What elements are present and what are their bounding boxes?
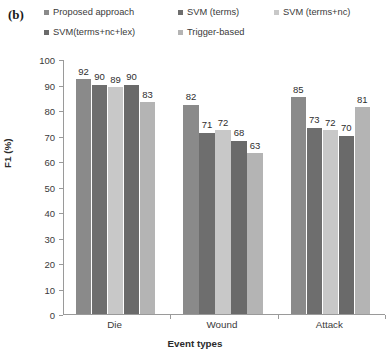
bar-value-label: 72 xyxy=(325,118,336,128)
legend-item-0[interactable]: Proposed approach xyxy=(44,8,134,17)
legend-swatch-icon xyxy=(178,30,183,35)
bar[interactable] xyxy=(108,87,123,314)
bar[interactable] xyxy=(215,130,230,314)
bar-wrapper: 90 xyxy=(92,59,107,314)
legend-item-label: Trigger-based xyxy=(187,28,245,37)
legend-swatch-icon xyxy=(44,10,49,15)
bar[interactable] xyxy=(355,107,370,314)
bar-value-label: 89 xyxy=(110,75,121,85)
bar-wrapper: 72 xyxy=(215,59,230,314)
bar[interactable] xyxy=(183,105,198,314)
legend-item-label: SVM (terms+nc) xyxy=(283,8,350,17)
x-axis-tick xyxy=(385,315,386,319)
y-axis-tick-label: 90 xyxy=(44,80,55,91)
y-axis-tick: 10 xyxy=(59,290,63,291)
bar[interactable] xyxy=(76,79,91,314)
bar-wrapper: 81 xyxy=(355,59,370,314)
bar-value-label: 90 xyxy=(126,72,137,82)
legend-item-1[interactable]: SVM (terms) xyxy=(178,8,239,17)
chart-legend: Proposed approachSVM (terms)SVM (terms+n… xyxy=(44,6,388,48)
bar[interactable] xyxy=(199,133,214,314)
bar-wrapper: 71 xyxy=(199,59,214,314)
bar[interactable] xyxy=(92,85,107,315)
y-axis-tick: 20 xyxy=(59,264,63,265)
bar[interactable] xyxy=(323,130,338,314)
y-axis-tick-label: 40 xyxy=(44,208,55,219)
legend-item-2[interactable]: SVM (terms+nc) xyxy=(274,8,350,17)
bar-wrapper: 83 xyxy=(140,59,155,314)
bar[interactable] xyxy=(140,102,155,314)
x-axis-tick xyxy=(278,315,279,319)
figure-panel-label: (b) xyxy=(8,7,24,23)
bar[interactable] xyxy=(339,136,354,315)
x-axis-category-label: Die xyxy=(107,319,122,330)
legend-item-3[interactable]: SVM(terms+nc+lex) xyxy=(44,28,135,37)
legend-swatch-icon xyxy=(178,10,183,15)
bar-wrapper: 63 xyxy=(247,59,262,314)
bar-wrapper: 90 xyxy=(124,59,139,314)
y-axis-tick: 40 xyxy=(59,213,63,214)
bar-value-label: 90 xyxy=(94,72,105,82)
bar-value-label: 63 xyxy=(250,141,261,151)
bar-value-label: 71 xyxy=(202,120,213,130)
bar-group-attack: 8573727081 xyxy=(291,60,370,314)
y-axis-tick: 0 xyxy=(59,315,63,316)
bar-wrapper: 73 xyxy=(307,59,322,314)
bar-wrapper: 82 xyxy=(183,59,198,314)
y-axis-tick-label: 70 xyxy=(44,131,55,142)
bar-wrapper: 89 xyxy=(108,59,123,314)
x-axis-category-label: Attack xyxy=(316,319,343,330)
plot-area: 0102030405060708090100 92908990838271726… xyxy=(63,60,385,315)
y-axis-tick: 30 xyxy=(59,239,63,240)
y-axis-tick-label: 0 xyxy=(50,310,55,321)
y-axis-tick: 90 xyxy=(59,86,63,87)
bar[interactable] xyxy=(307,128,322,314)
bar-wrapper: 92 xyxy=(76,59,91,314)
y-axis-tick-label: 60 xyxy=(44,157,55,168)
x-axis-tick xyxy=(170,315,171,319)
x-axis-title: Event types xyxy=(0,338,390,349)
bar[interactable] xyxy=(247,153,262,314)
bar-value-label: 81 xyxy=(357,95,368,105)
legend-item-label: Proposed approach xyxy=(53,8,134,17)
y-axis-tick-label: 80 xyxy=(44,106,55,117)
legend-item-label: SVM(terms+nc+lex) xyxy=(53,28,135,37)
bar-value-label: 68 xyxy=(234,128,245,138)
legend-swatch-icon xyxy=(44,30,49,35)
y-axis-tick: 50 xyxy=(59,188,63,189)
bar-value-label: 72 xyxy=(218,118,229,128)
bar[interactable] xyxy=(291,97,306,314)
y-axis-tick: 80 xyxy=(59,111,63,112)
bar-group-die: 9290899083 xyxy=(76,60,155,314)
bar-value-label: 83 xyxy=(142,90,153,100)
legend-item-label: SVM (terms) xyxy=(187,8,239,17)
bar-value-label: 73 xyxy=(309,115,320,125)
bar-value-label: 82 xyxy=(186,92,197,102)
bar-wrapper: 68 xyxy=(231,59,246,314)
y-axis-tick-label: 30 xyxy=(44,233,55,244)
bars-layer: 929089908382717268638573727081 xyxy=(64,60,385,314)
legend-swatch-icon xyxy=(274,10,279,15)
y-axis-tick-label: 10 xyxy=(44,284,55,295)
bar-group-wound: 8271726863 xyxy=(183,60,262,314)
y-axis-tick: 60 xyxy=(59,162,63,163)
y-axis-tick: 70 xyxy=(59,137,63,138)
legend-item-4[interactable]: Trigger-based xyxy=(178,28,245,37)
bar-wrapper: 72 xyxy=(323,59,338,314)
bar-value-label: 85 xyxy=(293,85,304,95)
y-axis-tick-label: 50 xyxy=(44,182,55,193)
y-axis-tick-label: 20 xyxy=(44,259,55,270)
bar[interactable] xyxy=(231,141,246,314)
x-axis-category-label: Wound xyxy=(206,319,237,330)
x-axis-line xyxy=(63,314,385,315)
y-axis-title: F1 (%) xyxy=(2,139,13,168)
y-axis-tick: 100 xyxy=(59,60,63,61)
bar-value-label: 70 xyxy=(341,123,352,133)
bar[interactable] xyxy=(124,85,139,315)
bar-value-label: 92 xyxy=(78,67,89,77)
bar-wrapper: 85 xyxy=(291,59,306,314)
bar-wrapper: 70 xyxy=(339,59,354,314)
y-axis-tick-label: 100 xyxy=(39,55,55,66)
